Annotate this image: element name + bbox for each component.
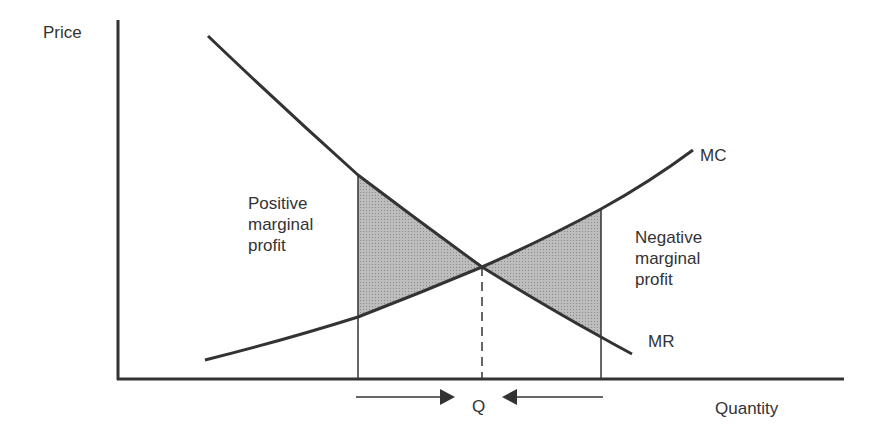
positive-profit-label: Positive marginal profit: [248, 193, 313, 256]
negative-profit-region: [482, 209, 601, 337]
mr-label: MR: [648, 331, 674, 352]
marginal-profit-diagram: [0, 0, 887, 432]
negative-profit-label: Negative marginal profit: [635, 227, 702, 290]
y-axis-label: Price: [43, 22, 82, 43]
mc-label: MC: [700, 145, 726, 166]
x-axis-label: Quantity: [715, 398, 778, 419]
left-arrow-icon: [502, 389, 517, 405]
right-arrow-icon: [440, 389, 455, 405]
positive-profit-region: [358, 175, 482, 317]
equilibrium-q-label: Q: [472, 396, 485, 417]
